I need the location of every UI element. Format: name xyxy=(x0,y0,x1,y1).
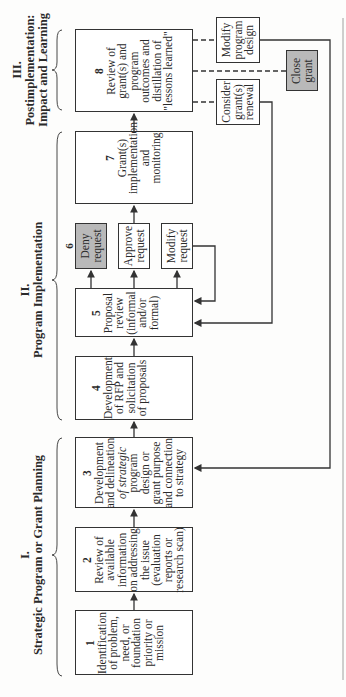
outcome-text: grant xyxy=(302,57,314,83)
step-number: 3 xyxy=(82,437,94,508)
step-6-number: 6 xyxy=(63,243,75,249)
option-text: Deny xyxy=(80,229,92,262)
modify-request-box: Modify request xyxy=(161,223,193,269)
section-header-program-implementation: II. Program Implementation xyxy=(19,222,45,358)
step-text: need, or xyxy=(119,612,131,674)
step-number: 8 xyxy=(94,31,106,110)
outcome-text: Close xyxy=(291,57,303,83)
step-text: to strategy xyxy=(174,437,186,508)
step-text: implementation xyxy=(128,121,140,193)
step-number: 2 xyxy=(82,527,94,592)
step-number: 5 xyxy=(90,291,102,334)
option-text: Approve xyxy=(123,226,135,266)
step-text: research scan) xyxy=(174,527,186,592)
step-text: mission xyxy=(153,612,165,674)
step-text: on addressing xyxy=(128,527,140,592)
step-text: Proposal xyxy=(102,291,114,334)
step-number: 4 xyxy=(91,357,103,419)
step-text: and delineation xyxy=(105,437,117,508)
close-grant-box: Close grant xyxy=(286,50,318,91)
step-number: 1 xyxy=(84,612,96,674)
step-text: Identification xyxy=(96,612,108,674)
step-text: (informal xyxy=(125,291,137,334)
step-text: priority or xyxy=(142,612,154,674)
step-1-identification-box: 1 Identification of problem, need, or fo… xyxy=(75,610,193,675)
step-text: of proposals xyxy=(137,357,149,419)
step-number: 7 xyxy=(105,121,117,193)
section-header-strategic-planning: I. Strategic Program or Grant Planning xyxy=(19,455,45,655)
step-text: outcomes and xyxy=(140,31,152,110)
step-text: grant purpose xyxy=(151,437,163,508)
step-text: (evaluation xyxy=(151,527,163,592)
step-text: and/or xyxy=(136,291,148,334)
step-5-proposal-review-box: 5 Proposal review (informal and/or forma… xyxy=(75,288,193,337)
step-text: monitoring xyxy=(151,121,163,193)
step-text: of RFP and xyxy=(114,357,126,419)
step-text: review xyxy=(113,291,125,334)
grant-process-diagram: III. Postimplementation: Impact and Lear… xyxy=(0,0,346,697)
step-text: grant(s) and xyxy=(117,31,129,110)
section-header-postimplementation: III. Postimplementation: Impact and Lear… xyxy=(11,13,50,127)
outcome-text: Modify xyxy=(221,21,233,60)
option-text: request xyxy=(91,229,103,262)
outcome-text: design xyxy=(244,21,256,60)
option-text: request xyxy=(134,226,146,266)
step-text: available xyxy=(105,527,117,592)
option-text: Modify xyxy=(166,229,178,264)
step-text: foundation xyxy=(130,612,142,674)
step-8-review-box: 8 Review of grant(s) and program outcome… xyxy=(75,29,193,112)
deny-request-box: Deny request xyxy=(75,223,107,269)
step-3-strategic-design-box: 3 Development and delineation of strateg… xyxy=(75,437,193,508)
section-title-line2: Impact and Learning xyxy=(37,13,50,127)
step-text: "lessons learned" xyxy=(163,31,175,110)
step-text: program xyxy=(128,437,140,508)
option-text: request xyxy=(177,229,189,264)
approve-request-box: Approve request xyxy=(118,223,150,269)
step-4-rfp-box: 4 Development of RFP and solicitation of… xyxy=(75,356,193,420)
step-text: of problem, xyxy=(107,612,119,674)
step-text: formal) xyxy=(148,291,160,334)
step-7-implementation-box: 7 Grant(s) implementation and monitoring xyxy=(75,131,193,204)
section-title: Strategic Program or Grant Planning xyxy=(32,455,45,655)
consider-renewal-box: Consider grant(s) renewal xyxy=(216,79,260,125)
outcome-text: Consider xyxy=(221,81,233,123)
section-title: Program Implementation xyxy=(32,222,45,358)
step-2-review-info-box: 2 Review of available information on add… xyxy=(75,527,193,592)
modify-program-design-box: Modify program design xyxy=(216,17,260,63)
outcome-text: renewal xyxy=(244,81,256,123)
